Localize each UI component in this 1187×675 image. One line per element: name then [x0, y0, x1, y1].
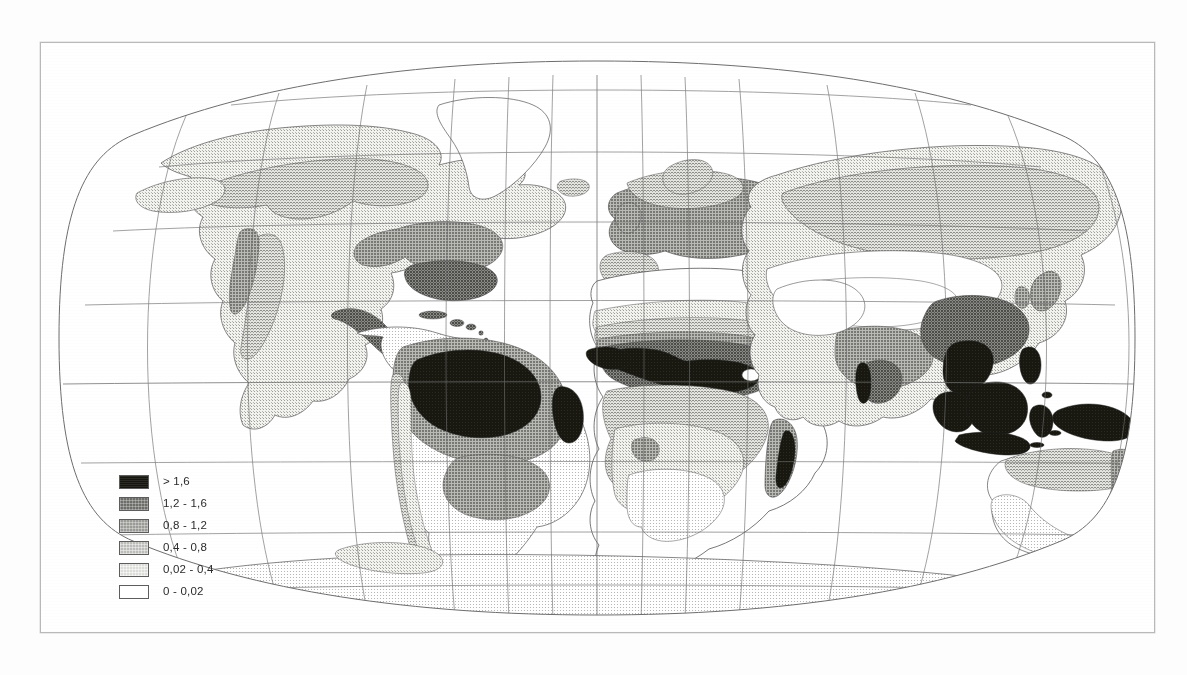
legend-swatch: [119, 475, 149, 489]
legend-label: 0,8 - 1,2: [163, 520, 207, 532]
region-iceland: [557, 179, 589, 196]
legend-row[interactable]: 0,8 - 1,2: [119, 515, 214, 537]
region-tasmania: [1098, 566, 1119, 585]
legend-swatch: [119, 497, 149, 511]
legend-swatch: [119, 563, 149, 577]
legend-swatch: [119, 541, 149, 555]
legend-label: > 1,6: [163, 476, 190, 488]
legend-row[interactable]: 0,02 - 0,4: [119, 559, 214, 581]
legend-swatch: [119, 519, 149, 533]
screenshot-canvas: > 1,6 1,2 - 1,6 0,8 - 1,2 0,4 - 0,8 0,02…: [0, 0, 1187, 675]
region-small-isles-4: [1136, 424, 1142, 430]
legend-row[interactable]: > 1,6: [119, 471, 214, 493]
legend-row[interactable]: 1,2 - 1,6: [119, 493, 214, 515]
legend-row[interactable]: 0,4 - 0,8: [119, 537, 214, 559]
region-southern-brazil: [443, 454, 550, 520]
region-borneo: [966, 382, 1027, 435]
map-frame: > 1,6 1,2 - 1,6 0,8 - 1,2 0,4 - 0,8 0,02…: [40, 42, 1155, 633]
legend-swatch: [119, 585, 149, 599]
legend-label: 0,02 - 0,4: [163, 564, 214, 576]
region-small-isles-1: [1042, 392, 1052, 398]
legend-label: 1,2 - 1,6: [163, 498, 207, 510]
region-australia-east-08: [1111, 449, 1146, 534]
legend-label: 0,4 - 0,8: [163, 542, 207, 554]
legend-label: 0 - 0,02: [163, 586, 204, 598]
region-korea: [1015, 287, 1030, 309]
legend-row[interactable]: 0 - 0,02: [119, 581, 214, 603]
region-small-isles-2: [1049, 431, 1061, 436]
class-legend: > 1,6 1,2 - 1,6 0,8 - 1,2 0,4 - 0,8 0,02…: [119, 471, 214, 603]
region-small-isles-5: [1143, 433, 1148, 438]
region-small-isles-3: [1030, 443, 1044, 448]
region-new-zealand-south: [1141, 529, 1154, 559]
